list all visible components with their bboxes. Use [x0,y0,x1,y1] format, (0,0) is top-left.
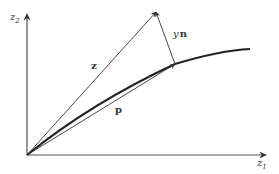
vector-p [27,64,175,155]
vector-z-label: z [91,60,97,71]
z1-axis-label: z1 [256,157,267,171]
geometry-diagram: z2 z1 z p yn [0,0,279,174]
vector-yn-label: yn [172,28,188,39]
vector-p-label: p [115,104,122,115]
z2-axis-label: z2 [9,11,20,25]
curve [27,49,250,155]
